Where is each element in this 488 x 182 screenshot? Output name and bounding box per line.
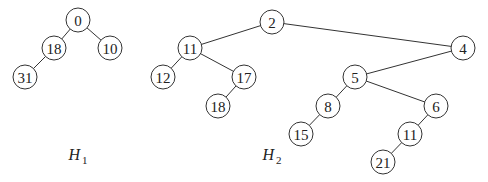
heap-diagram: 01810312111217184581561121 H1 H2 [0,0,488,182]
tree-node: 5 [343,65,367,89]
heap-label-h2: H2 [261,146,281,166]
tree-node: 12 [151,65,175,89]
tree-node: 18 [206,94,230,118]
tree-node: 17 [232,65,256,89]
tree-node: 4 [451,36,475,60]
node-key: 2 [268,15,276,31]
node-key: 8 [324,99,332,115]
node-key: 12 [156,70,171,86]
node-key: 4 [459,41,467,57]
node-key: 18 [47,41,62,57]
tree-node: 8 [316,94,340,118]
tree-node: 10 [98,36,122,60]
node-key: 6 [432,99,440,115]
tree-node: 0 [66,8,90,32]
node-key: 5 [351,70,359,86]
tree-node: 11 [178,36,202,60]
tree-edge [355,48,463,77]
tree-node: 18 [42,36,66,60]
tree-node: 31 [13,65,37,89]
tree-node: 15 [289,122,313,146]
tree-node: 2 [260,10,284,34]
tree-node: 6 [424,94,448,118]
node-key: 21 [376,155,391,171]
node-key: 15 [294,127,309,143]
node-key: 18 [211,99,226,115]
node-key: 11 [183,41,197,57]
tree-edge [190,22,272,48]
node-key: 0 [74,13,82,29]
nodes-layer: 01810312111217184581561121 [13,8,475,174]
node-key: 17 [237,70,253,86]
node-key: 10 [103,41,118,57]
heap-label-h1: H1 [67,146,87,166]
tree-node: 21 [371,150,395,174]
edges-layer [25,20,463,162]
tree-node: 11 [398,122,422,146]
node-key: 31 [18,70,33,86]
tree-edge [272,22,463,48]
tree-edge [355,77,436,106]
node-key: 11 [403,127,417,143]
